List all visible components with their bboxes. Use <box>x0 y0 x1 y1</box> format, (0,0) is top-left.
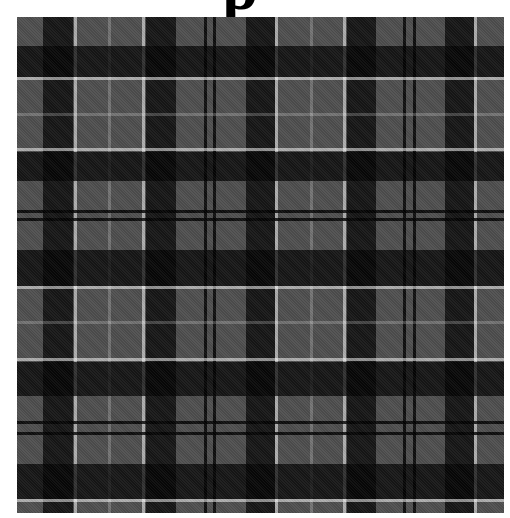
horizontal-stripe-light <box>17 286 504 289</box>
tartan-plaid-image <box>17 17 504 513</box>
horizontal-stripe-thin <box>17 113 504 116</box>
horizontal-stripe-dark <box>17 46 504 77</box>
horizontal-stripe-dark <box>17 464 504 499</box>
horizontal-stripes <box>17 17 504 513</box>
horizontal-stripe-dark <box>17 250 504 286</box>
horizontal-stripe-thindark <box>17 421 504 424</box>
horizontal-stripe-thindark <box>17 218 504 221</box>
horizontal-stripe-light <box>17 499 504 502</box>
horizontal-stripe-light <box>17 358 504 361</box>
horizontal-stripe-thindark <box>17 210 504 213</box>
horizontal-stripe-light <box>17 148 504 151</box>
horizontal-stripe-thin <box>17 321 504 324</box>
horizontal-stripe-dark <box>17 362 504 396</box>
horizontal-stripe-thindark <box>17 432 504 435</box>
horizontal-stripe-light <box>17 77 504 80</box>
horizontal-stripe-dark <box>17 152 504 181</box>
